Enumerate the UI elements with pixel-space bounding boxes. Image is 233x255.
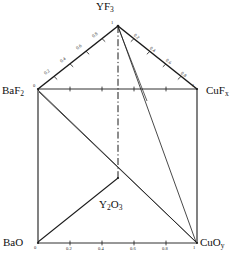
tick-label-baf2-zero: 0 xyxy=(33,84,35,89)
tick-label-bottom-04: 0.4 xyxy=(98,247,104,252)
tick-label-bottom-06: 0.6 xyxy=(130,247,136,252)
tick-label-bottom-zero: 0 xyxy=(34,246,36,251)
tick-label-bottom-02: 0.2 xyxy=(66,247,72,252)
tick-label-yf3-one: 1 xyxy=(111,21,113,26)
node-y2o3 xyxy=(117,177,119,179)
ticks-right-edge xyxy=(131,39,181,80)
vertex-cufx xyxy=(196,88,198,90)
vertex-label-cuoy: CuOy xyxy=(200,237,225,248)
vertex-cuoy xyxy=(196,242,198,244)
vertex-yf3 xyxy=(117,25,120,28)
tieline-bao-y2o3 xyxy=(38,178,118,242)
vertex-label-yf3: YF3 xyxy=(96,1,114,12)
vertex-label-bao: BaO xyxy=(3,237,23,248)
edge-baf2-yf3 xyxy=(38,26,118,89)
phase-diagram-figure: YF3 BaF2 CuFx BaO CuOy Y2O3 0.2 0.4 0.6 … xyxy=(0,0,233,255)
center-label-y2o3: Y2O3 xyxy=(99,199,122,210)
vertex-bao xyxy=(37,242,39,244)
tieline-yf3-cuoy xyxy=(118,26,196,242)
tick-label-cufx-one: 1 xyxy=(192,84,194,89)
vertex-baf2 xyxy=(37,88,39,90)
vertex-label-cufx: CuFx xyxy=(206,85,229,96)
vertex-label-baf2: BaF2 xyxy=(2,85,24,96)
tick-label-bottom-08: 0.8 xyxy=(162,247,168,252)
tieline-baf2-cuoy-b xyxy=(39,92,197,243)
tick-label-bottom-one: 1 xyxy=(193,246,195,251)
phase-diagram-canvas xyxy=(0,0,233,255)
